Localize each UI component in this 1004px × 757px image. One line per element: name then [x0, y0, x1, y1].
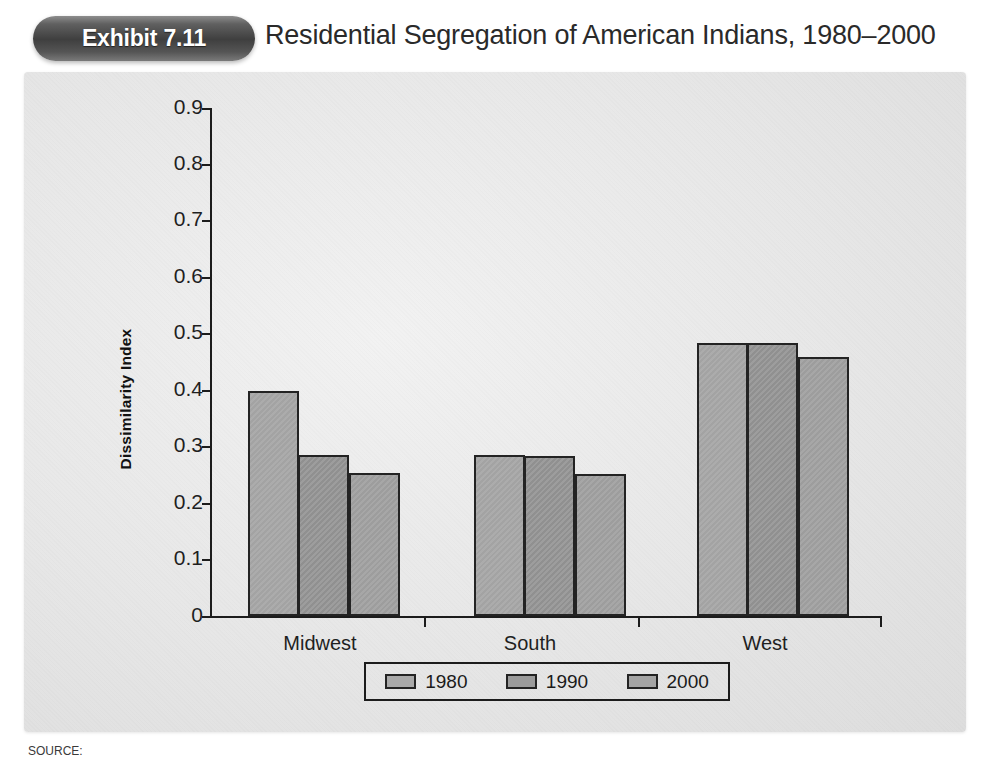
- legend-label-2000: 2000: [667, 671, 709, 693]
- y-tick-label: 0.5: [143, 320, 203, 344]
- y-tick-mark: [202, 108, 211, 110]
- exhibit-title: Residential Segregation of American Indi…: [265, 20, 936, 51]
- x-tick-mark: [880, 618, 882, 627]
- exhibit-number-badge: Exhibit 7.11: [33, 16, 255, 61]
- legend-swatch-1980: [385, 674, 416, 689]
- y-tick-label: 0.6: [143, 264, 203, 288]
- y-axis-line: [210, 108, 212, 617]
- bar-midwest-1990: [298, 455, 349, 616]
- bar-south-2000: [575, 474, 626, 616]
- x-tick-mark: [424, 618, 426, 627]
- y-tick-mark: [202, 277, 211, 279]
- bar-west-1980: [697, 343, 748, 616]
- bar-midwest-2000: [349, 473, 400, 616]
- y-tick-label: 0.3: [143, 433, 203, 457]
- exhibit-number-label: Exhibit 7.11: [82, 25, 206, 52]
- bar-midwest-1980: [248, 391, 299, 616]
- bar-west-1990: [747, 343, 798, 616]
- legend-entry-1990: 1990: [506, 671, 588, 693]
- y-tick-mark: [202, 616, 211, 618]
- legend-label-1980: 1980: [425, 671, 467, 693]
- y-tick-label: 0.2: [143, 490, 203, 514]
- legend-entry-2000: 2000: [627, 671, 709, 693]
- y-tick-label: 0: [143, 603, 203, 627]
- bar-south-1980: [474, 455, 525, 616]
- y-tick-mark: [202, 333, 211, 335]
- y-tick-label: 0.9: [143, 95, 203, 119]
- y-tick-mark: [202, 220, 211, 222]
- y-tick-mark: [202, 503, 211, 505]
- y-tick-mark: [202, 164, 211, 166]
- y-tick-mark: [202, 446, 211, 448]
- legend-entry-1980: 1980: [385, 671, 467, 693]
- legend-swatch-1990: [506, 674, 537, 689]
- bar-chart-plot-area: Dissimilarity Index 0.9 0.8 0.7 0.6 0.5 …: [24, 72, 966, 732]
- source-note: SOURCE:: [28, 744, 83, 757]
- y-tick-label: 0.1: [143, 546, 203, 570]
- bar-west-2000: [798, 357, 849, 616]
- y-tick-mark: [202, 390, 211, 392]
- y-tick-label: 0.4: [143, 377, 203, 401]
- legend-swatch-2000: [627, 674, 658, 689]
- bar-south-1990: [524, 456, 575, 616]
- chart-panel: Dissimilarity Index 0.9 0.8 0.7 0.6 0.5 …: [24, 72, 966, 732]
- x-tick-mark: [638, 618, 640, 627]
- chart-legend: 1980 1990 2000: [364, 662, 730, 701]
- y-tick-mark: [202, 559, 211, 561]
- legend-label-1990: 1990: [546, 671, 588, 693]
- y-tick-label: 0.8: [143, 151, 203, 175]
- y-axis-title: Dissimilarity Index: [117, 289, 135, 509]
- x-axis-label-south: South: [440, 632, 620, 655]
- x-axis-label-midwest: Midwest: [230, 632, 410, 655]
- exhibit-header: Exhibit 7.11 Residential Segregation of …: [0, 0, 1004, 78]
- x-axis-line: [210, 616, 882, 618]
- x-axis-label-west: West: [675, 632, 855, 655]
- y-tick-label: 0.7: [143, 207, 203, 231]
